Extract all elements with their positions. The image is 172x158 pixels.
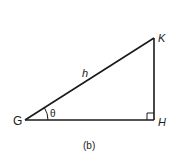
- right-angle-marker: [147, 113, 154, 120]
- hypotenuse-label: h: [82, 67, 88, 79]
- vertex-label-k: K: [158, 32, 166, 44]
- angle-arc-theta: [44, 108, 48, 120]
- vertex-label-g: G: [13, 114, 22, 128]
- vertex-label-h: H: [158, 116, 166, 128]
- figure-caption: (b): [83, 140, 95, 151]
- hypotenuse-gk: [25, 38, 154, 120]
- right-triangle-diagram: G K H h θ (b): [0, 0, 172, 158]
- angle-label-theta: θ: [50, 108, 56, 119]
